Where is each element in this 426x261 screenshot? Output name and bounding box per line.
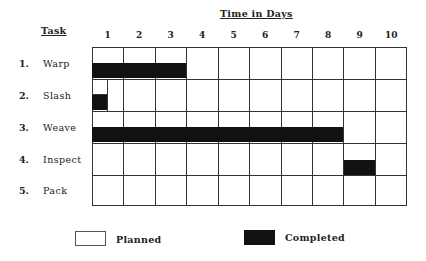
legend-planned-label: Planned xyxy=(116,234,162,245)
day-label: 3 xyxy=(155,30,187,40)
time-header: Time in Days xyxy=(220,8,293,19)
grid-line xyxy=(92,79,407,80)
task-number: 3. xyxy=(19,122,29,133)
day-label: 7 xyxy=(281,30,313,40)
grid-line xyxy=(92,175,407,176)
task-name: Pack xyxy=(43,185,67,196)
task-number: 1. xyxy=(19,58,29,69)
task-name: Inspect xyxy=(43,154,81,165)
grid-line xyxy=(375,47,376,206)
legend-planned-swatch xyxy=(75,231,106,246)
task-name: Slash xyxy=(43,90,71,101)
completed-bar-slash xyxy=(92,95,107,110)
task-name: Warp xyxy=(43,58,70,69)
grid-line xyxy=(343,47,344,206)
day-label: 6 xyxy=(250,30,282,40)
day-label: 10 xyxy=(376,30,408,40)
day-label: 9 xyxy=(344,30,376,40)
day-label: 1 xyxy=(92,30,124,40)
day-label: 8 xyxy=(313,30,345,40)
task-name: Weave xyxy=(43,122,76,133)
grid-subdivision xyxy=(107,79,108,111)
legend-completed-swatch xyxy=(244,230,275,245)
task-number: 4. xyxy=(19,154,29,165)
grid-line xyxy=(92,143,407,144)
task-number: 5. xyxy=(19,185,29,196)
day-label: 4 xyxy=(187,30,219,40)
task-header: Task xyxy=(41,25,66,36)
legend-completed-label: Completed xyxy=(285,232,345,243)
grid-line xyxy=(92,111,407,112)
completed-bar-inspect xyxy=(344,160,375,175)
completed-bar-weave xyxy=(92,127,343,142)
day-label: 5 xyxy=(218,30,250,40)
day-label: 2 xyxy=(124,30,156,40)
task-number: 2. xyxy=(19,90,29,101)
completed-bar-warp xyxy=(92,63,186,78)
